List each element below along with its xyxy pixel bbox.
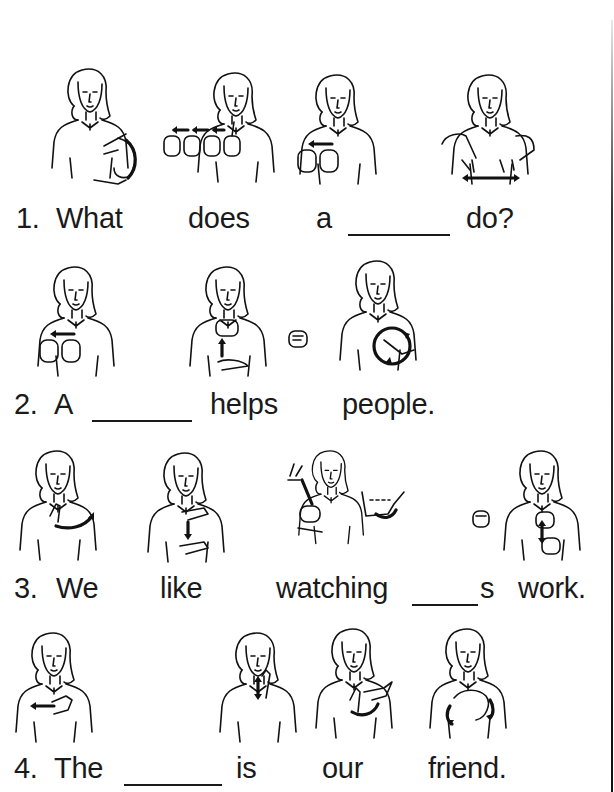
- sentence-4: 4. The is our friend.: [0, 620, 610, 792]
- word-watching: watching: [276, 574, 388, 603]
- word-a: A: [54, 390, 73, 419]
- word-like: like: [160, 574, 202, 603]
- sign-illustration-watching: [282, 450, 362, 550]
- sign-illustration-s-handshape: [286, 328, 312, 350]
- sign-illustration-do: [436, 74, 546, 184]
- word-work: work.: [518, 574, 586, 603]
- sign-illustration-a-2: [30, 266, 130, 376]
- word-helps: helps: [210, 390, 278, 419]
- word-a: a: [316, 204, 332, 233]
- word-what: What: [56, 204, 123, 233]
- answer-blank-3[interactable]: [412, 604, 478, 606]
- sign-illustration-watching-2: [360, 488, 406, 524]
- sign-illustration-what: [44, 68, 144, 198]
- sign-illustration-we: [12, 450, 112, 560]
- page-border-right: [611, 20, 613, 792]
- sign-illustration-friend: [416, 628, 526, 748]
- sign-illustration-work: [496, 450, 596, 565]
- sentence-1: 1. What does a do?: [0, 0, 610, 250]
- sentence-3: 3. We like watching s work.: [0, 430, 610, 620]
- sentence-number: 3.: [14, 574, 38, 603]
- word-is: is: [236, 754, 256, 783]
- sentence-number: 1.: [16, 204, 40, 233]
- sign-illustration-helps: [182, 266, 282, 381]
- sentence-2: 2. A helps people.: [0, 250, 610, 430]
- word-do: do?: [466, 204, 514, 233]
- sign-illustration-people: [332, 260, 442, 380]
- answer-blank-1[interactable]: [348, 234, 450, 236]
- answer-blank-4[interactable]: [124, 784, 222, 786]
- sentence-number: 4.: [14, 754, 38, 783]
- sign-illustration-our: [308, 628, 408, 748]
- sign-illustration-like: [140, 452, 240, 567]
- sign-illustration-a: [292, 74, 392, 194]
- sign-illustration-does: [160, 72, 280, 172]
- sign-illustration-the: [8, 632, 108, 737]
- answer-blank-2[interactable]: [92, 420, 192, 422]
- word-does: does: [188, 204, 250, 233]
- word-our: our: [322, 754, 363, 783]
- word-we: We: [56, 574, 98, 603]
- sentence-number: 2.: [14, 390, 38, 419]
- sign-illustration-is: [212, 632, 302, 747]
- word-people: people.: [342, 390, 435, 419]
- word-friend: friend.: [428, 754, 507, 783]
- word-the: The: [54, 754, 103, 783]
- word-s: s: [480, 574, 494, 603]
- sign-illustration-s-handshape: [470, 508, 494, 530]
